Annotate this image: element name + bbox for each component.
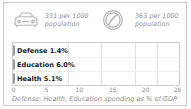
stat-item-cars: 331 per 1000 population xyxy=(12,9,89,31)
bar-row-defense[interactable]: Defense 1.4% xyxy=(13,45,15,56)
bar-series: Defense 1.4% Education 6.0% Health 5.1% xyxy=(13,43,179,85)
bar-label-education: Education 6.0% xyxy=(17,61,75,69)
x-axis: 0 5 10 15 20 25 xyxy=(12,86,180,95)
x-tick-10: 10 xyxy=(75,86,83,93)
stats-row: 331 per 1000 population 363 per 1000 pop… xyxy=(4,3,186,40)
stat-item-phones: 363 per 1000 population xyxy=(102,9,179,31)
bar-health[interactable] xyxy=(13,73,15,84)
stat-label-cars: 331 per 1000 population xyxy=(45,12,89,27)
car-icon xyxy=(12,9,40,31)
bar-row-health[interactable]: Health 5.1% xyxy=(13,73,15,84)
stat-label-phones: 363 per 1000 population xyxy=(135,12,179,27)
x-tick-25: 25 xyxy=(174,86,182,93)
bar-chart-plot-area: Defense 1.4% Education 6.0% Health 5.1% xyxy=(12,42,180,86)
x-tick-5: 5 xyxy=(45,86,49,93)
bar-row-education[interactable]: Education 6.0% xyxy=(13,59,15,70)
x-tick-15: 15 xyxy=(109,86,117,93)
bar-education[interactable] xyxy=(13,59,15,70)
x-tick-0: 0 xyxy=(12,86,16,93)
telephone-circle-icon xyxy=(102,9,130,31)
x-tick-20: 20 xyxy=(142,86,150,93)
bar-label-defense: Defense 1.4% xyxy=(17,47,68,55)
infographic-card: 331 per 1000 population 363 per 1000 pop… xyxy=(3,2,187,106)
chart-caption: Defense, Health, Education spending as %… xyxy=(12,95,184,103)
bar-label-health: Health 5.1% xyxy=(17,75,62,83)
bar-defense[interactable] xyxy=(13,45,15,56)
